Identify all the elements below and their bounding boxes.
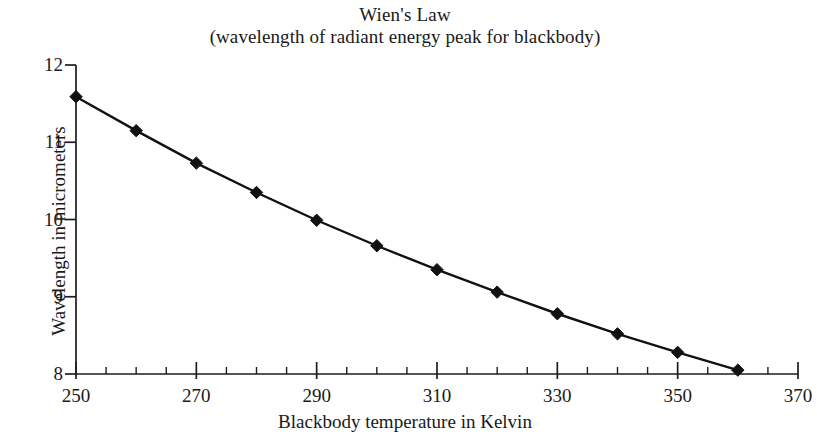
- data-point-marker: [130, 124, 142, 136]
- data-point-marker: [611, 328, 623, 340]
- x-tick-label: 330: [527, 386, 587, 405]
- x-tick-label: 250: [46, 386, 106, 405]
- x-tick-label: 310: [407, 386, 467, 405]
- data-series: [70, 90, 744, 376]
- data-point-marker: [431, 264, 443, 276]
- series-line: [76, 97, 738, 370]
- y-tick-label: 10: [19, 210, 63, 229]
- axes: [65, 65, 798, 379]
- x-tick-label: 270: [166, 386, 226, 405]
- x-tick-label: 370: [768, 386, 817, 405]
- data-point-marker: [671, 346, 683, 358]
- data-point-marker: [371, 240, 383, 252]
- y-tick-label: 8: [19, 364, 63, 383]
- y-tick-label: 12: [19, 55, 63, 74]
- y-tick-label: 11: [19, 132, 63, 151]
- data-point-marker: [190, 157, 202, 169]
- data-point-marker: [250, 186, 262, 198]
- x-tick-label: 350: [648, 386, 708, 405]
- data-point-marker: [551, 308, 563, 320]
- data-point-marker: [70, 90, 82, 102]
- y-tick-label: 9: [19, 287, 63, 306]
- data-point-marker: [310, 214, 322, 226]
- x-tick-label: 290: [287, 386, 347, 405]
- data-point-marker: [491, 286, 503, 298]
